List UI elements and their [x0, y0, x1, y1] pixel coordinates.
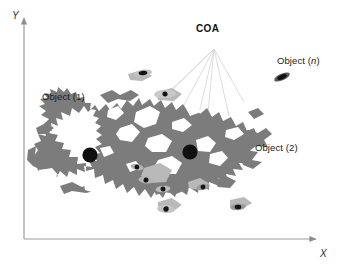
object-2-label: Object (2) — [255, 143, 298, 153]
object-n-suffix: ) — [316, 55, 319, 66]
figure-container: Y X COA Object (1) Object (2) Object (n) — [0, 0, 342, 268]
centroid-marker-object-2 — [182, 144, 197, 159]
centroid-marker-object-1 — [82, 147, 97, 162]
y-axis-label: Y — [12, 11, 19, 21]
scatter-plot-canvas — [0, 0, 342, 268]
object-1-label: Object (1) — [42, 92, 85, 102]
x-axis-label: X — [320, 249, 327, 259]
coa-ray — [214, 49, 229, 116]
coa-label: COA — [196, 24, 219, 34]
coa-ray — [214, 49, 244, 102]
object-n-label: Object (n) — [277, 56, 320, 66]
object-n-prefix: Object ( — [277, 55, 311, 66]
